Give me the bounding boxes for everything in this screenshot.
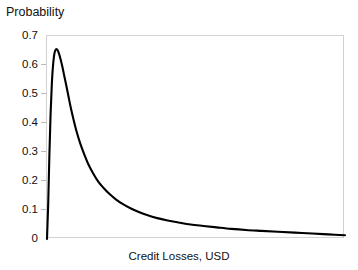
y-tick-label: 0.2 bbox=[22, 174, 38, 186]
plot-area bbox=[46, 35, 344, 238]
probability-density-curve bbox=[47, 36, 345, 239]
y-tick-label: 0.1 bbox=[22, 203, 38, 215]
y-tick-label: 0.3 bbox=[22, 145, 38, 157]
chart-figure: Probability 0.70.60.50.40.30.20.10 Credi… bbox=[0, 0, 358, 270]
y-tick-label: 0.7 bbox=[22, 29, 38, 41]
y-tick-label: 0.6 bbox=[22, 58, 38, 70]
y-tick-label: 0.5 bbox=[22, 87, 38, 99]
curve-path bbox=[47, 49, 345, 239]
y-tick-label: 0 bbox=[32, 232, 38, 244]
y-axis-tick-labels: 0.70.60.50.40.30.20.10 bbox=[0, 0, 46, 270]
y-tick-label: 0.4 bbox=[22, 116, 38, 128]
x-axis-label: Credit Losses, USD bbox=[0, 249, 358, 263]
